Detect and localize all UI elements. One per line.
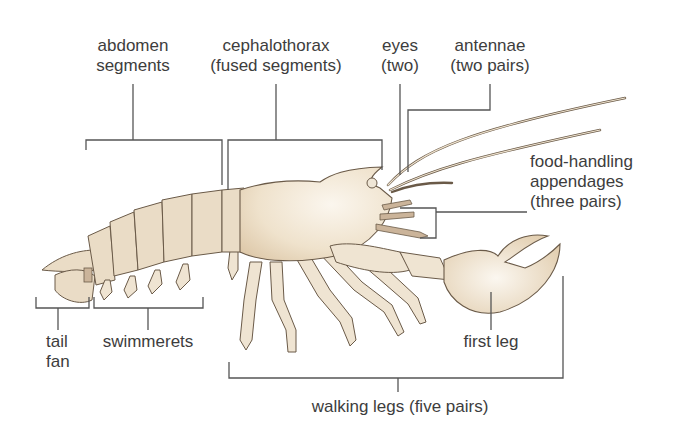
tail-fan-label: tail fan	[46, 332, 70, 372]
antennae-label-line1: antennae	[440, 36, 540, 56]
eyes-label-line2: (two)	[370, 56, 430, 76]
food-handling-label-line1: food-handling	[530, 152, 633, 172]
walking-legs-label-line1: walking legs (five pairs)	[280, 397, 520, 417]
tail-fan-label-line2: fan	[46, 352, 70, 372]
first-leg-label-line1: first leg	[436, 332, 546, 352]
food-handling-label-line2: appendages	[530, 172, 633, 192]
eyes-label-line1: eyes	[370, 36, 430, 56]
eyes-label: eyes (two)	[370, 36, 430, 76]
cephalothorax-label: cephalothorax (fused segments)	[196, 36, 356, 76]
abdomen-segments-label: abdomen segments	[88, 36, 178, 76]
antennae-label-line2: (two pairs)	[440, 56, 540, 76]
cephalothorax-label-line1: cephalothorax	[196, 36, 356, 56]
swimmerets-label-line1: swimmerets	[92, 332, 204, 352]
swimmerets-label: swimmerets	[92, 332, 204, 352]
abdomen-label-line1: abdomen	[88, 36, 178, 56]
eye-drawing	[367, 178, 377, 188]
first-leg-claw-drawing	[330, 235, 560, 313]
food-handling-appendages-drawing	[376, 200, 428, 238]
food-handling-label-line3: (three pairs)	[530, 192, 633, 212]
antennae-label: antennae (two pairs)	[440, 36, 540, 76]
first-leg-label: first leg	[436, 332, 546, 352]
cephalothorax-label-line2: (fused segments)	[196, 56, 356, 76]
abdomen-label-line2: segments	[88, 56, 178, 76]
abdomen-drawing	[42, 188, 248, 302]
tail-fan-label-line1: tail	[46, 332, 70, 352]
food-handling-appendages-label: food-handling appendages (three pairs)	[530, 152, 633, 212]
walking-legs-label: walking legs (five pairs)	[280, 397, 520, 417]
